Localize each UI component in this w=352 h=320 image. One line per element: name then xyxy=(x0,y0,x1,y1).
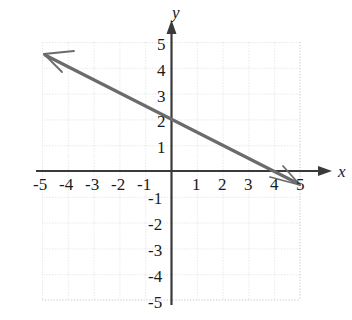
x-axis-label: x xyxy=(338,163,346,180)
y-tick-label-5: 5 xyxy=(157,36,166,53)
x-tick-label-4: 4 xyxy=(270,176,279,193)
x-tick-label-3: 3 xyxy=(244,176,253,193)
y-tick-label-neg3: -3 xyxy=(148,242,162,259)
x-tick-label-5: 5 xyxy=(296,176,305,193)
x-tick-label-1: 1 xyxy=(192,176,201,193)
y-tick-label-neg1: -1 xyxy=(148,190,162,207)
y-tick-label-neg2: -2 xyxy=(148,216,162,233)
x-tick-label-neg4: -4 xyxy=(59,176,73,193)
x-tick-label-neg3: -3 xyxy=(85,176,99,193)
y-tick-label-neg5: -5 xyxy=(148,294,162,311)
coordinate-plane-graph: x y -5 -4 -3 -2 -1 1 2 3 4 5 5 4 3 2 1 -… xyxy=(0,0,352,320)
y-tick-label-2: 2 xyxy=(157,113,166,130)
y-tick-label-4: 4 xyxy=(157,62,166,79)
graph-canvas xyxy=(0,0,352,320)
y-tick-label-1: 1 xyxy=(157,139,166,156)
y-tick-label-neg4: -4 xyxy=(148,268,162,285)
y-tick-label-3: 3 xyxy=(157,88,166,105)
y-axis-label: y xyxy=(172,4,180,21)
x-tick-label-neg5: -5 xyxy=(33,176,47,193)
x-tick-label-neg2: -2 xyxy=(111,176,125,193)
x-tick-label-2: 2 xyxy=(218,176,227,193)
